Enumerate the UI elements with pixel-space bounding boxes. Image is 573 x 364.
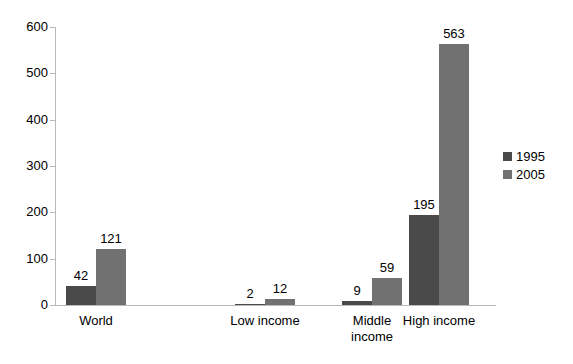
bar-value-label: 563 xyxy=(430,27,478,41)
y-tick-label-wrap: 500 xyxy=(0,66,48,79)
y-tick-label-wrap: 0 xyxy=(0,298,48,311)
y-tick-mark xyxy=(50,259,56,260)
legend-item[interactable]: 1995 xyxy=(503,148,545,164)
x-category-label: High income xyxy=(379,313,499,329)
y-tick-mark xyxy=(50,166,56,167)
y-tick-mark xyxy=(50,73,56,74)
legend-swatch-icon xyxy=(503,170,512,179)
bar xyxy=(372,278,402,305)
y-tick-label: 600 xyxy=(4,20,48,33)
bar-value-label: 12 xyxy=(256,282,304,296)
legend-label: 1995 xyxy=(516,150,545,163)
y-tick-label: 300 xyxy=(4,159,48,172)
bar xyxy=(235,304,265,305)
y-tick-label: 100 xyxy=(4,252,48,265)
bar-value-label: 59 xyxy=(363,261,411,275)
bar-chart: 0100200300400500600 42121212959195563 Wo… xyxy=(0,0,573,364)
bar xyxy=(342,301,372,305)
legend-item[interactable]: 2005 xyxy=(503,166,545,182)
y-tick-label-wrap: 300 xyxy=(0,159,48,172)
y-tick-mark xyxy=(50,120,56,121)
y-tick-mark xyxy=(50,212,56,213)
bar xyxy=(66,286,96,305)
bar xyxy=(265,299,295,305)
bar xyxy=(96,249,126,305)
y-tick-label: 400 xyxy=(4,113,48,126)
x-category-label: World xyxy=(36,313,156,329)
legend-label: 2005 xyxy=(516,168,545,181)
bar xyxy=(409,215,439,305)
y-tick-label: 200 xyxy=(4,205,48,218)
y-tick-label-wrap: 400 xyxy=(0,113,48,126)
chart-legend: 19952005 xyxy=(503,148,545,184)
y-tick-mark xyxy=(50,305,56,306)
plot-area: 0100200300400500600 42121212959195563 Wo… xyxy=(0,0,573,364)
x-category-label: Low income xyxy=(205,313,325,329)
y-tick-mark xyxy=(50,27,56,28)
y-tick-label-wrap: 200 xyxy=(0,205,48,218)
x-axis-line xyxy=(55,305,496,306)
y-tick-label-wrap: 100 xyxy=(0,252,48,265)
bar xyxy=(439,44,469,305)
legend-swatch-icon xyxy=(503,152,512,161)
y-tick-label: 500 xyxy=(4,66,48,79)
y-tick-label: 0 xyxy=(4,298,48,311)
bar-value-label: 121 xyxy=(87,232,135,246)
y-tick-label-wrap: 600 xyxy=(0,20,48,33)
